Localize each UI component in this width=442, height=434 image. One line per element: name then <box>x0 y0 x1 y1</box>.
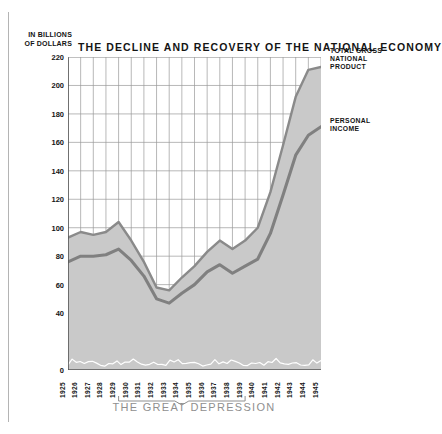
y-axis-units-line2: OF DOLLARS <box>20 40 72 49</box>
legend-gnp-line1: TOTAL GROSS <box>330 47 392 55</box>
x-tick-1925: 1925 <box>59 382 66 398</box>
y-tick-0: 0 <box>22 366 64 375</box>
legend-personal-income: PERSONAL INCOME <box>330 117 392 133</box>
legend-gnp-line2: NATIONAL <box>330 55 392 63</box>
y-tick-160: 160 <box>22 138 64 147</box>
legend-gnp-line3: PRODUCT <box>330 63 392 71</box>
y-tick-120: 120 <box>22 195 64 204</box>
legend-pi-line1: PERSONAL <box>330 117 392 125</box>
y-tick-80: 80 <box>22 252 64 261</box>
y-tick-220: 220 <box>22 53 64 62</box>
y-tick-60: 60 <box>22 281 64 290</box>
x-axis-tick-labels: 1925192619271928192919301931193219331934… <box>68 372 321 398</box>
legend-pi-line2: INCOME <box>330 125 392 133</box>
y-tick-200: 200 <box>22 81 64 90</box>
y-tick-100: 100 <box>22 224 64 233</box>
plot-area <box>68 57 321 370</box>
y-axis-units-label: IN BILLIONS OF DOLLARS <box>20 31 72 48</box>
chart-title: THE DECLINE AND RECOVERY OF THE NATIONAL… <box>78 41 338 53</box>
chart-canvas <box>68 57 321 370</box>
page-left-rule <box>8 12 9 422</box>
depression-bracket <box>68 396 321 406</box>
y-tick-40: 40 <box>22 309 64 318</box>
y-tick-140: 140 <box>22 167 64 176</box>
y-tick-180: 180 <box>22 110 64 119</box>
legend-total-gross-national-product: TOTAL GROSS NATIONAL PRODUCT <box>330 47 392 71</box>
y-axis-units-line1: IN BILLIONS <box>28 31 72 38</box>
